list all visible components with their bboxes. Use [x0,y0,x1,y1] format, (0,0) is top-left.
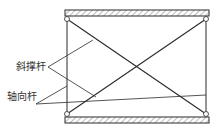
label-diagonal-brace: 斜撑杆 [16,62,46,72]
label-axial-rod: 轴向杆 [7,92,37,102]
bottom-plate [65,117,209,123]
hinge-top-right [204,17,209,22]
top-plate [65,10,209,16]
leader-axial-2 [36,95,206,104]
leader-axial-1 [36,86,67,104]
hinge-bottom-right [204,112,209,117]
hinge-bottom-left [65,112,70,117]
leader-diagonal-1 [48,40,93,67]
hinge-top-left [65,17,70,22]
